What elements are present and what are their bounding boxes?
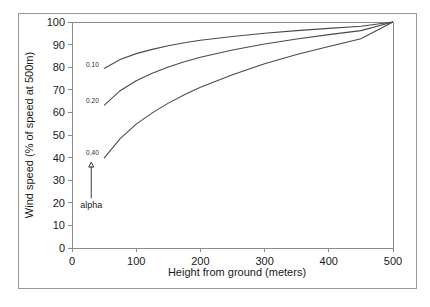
- y-axis-title: Wind speed (% of speed at 500m): [23, 52, 35, 218]
- y-tick-label: 10: [53, 219, 65, 231]
- series-label-0.10: 0.10: [86, 61, 99, 68]
- ticks-group: [68, 22, 393, 252]
- x-tick-label: 100: [127, 255, 145, 267]
- y-tick-label: 40: [53, 152, 65, 164]
- y-tick-label: 20: [53, 197, 65, 209]
- series-label-0.20: 0.20: [86, 97, 99, 104]
- y-tick-label: 100: [47, 16, 65, 28]
- axes-group: [72, 22, 393, 248]
- x-axis-title: Height from ground (meters): [168, 266, 306, 278]
- wind-shear-chart: 01020304050607080901000100200300400500 0…: [0, 0, 430, 307]
- x-tick-label: 0: [69, 255, 75, 267]
- y-tick-label: 30: [53, 174, 65, 186]
- curves-group: [104, 22, 393, 158]
- curve-alpha-0.10: [104, 22, 393, 69]
- x-tick-label: 500: [384, 255, 402, 267]
- curve-alpha-0.40: [104, 22, 393, 158]
- y-tick-label: 50: [53, 129, 65, 141]
- y-tick-label: 90: [53, 39, 65, 51]
- y-tick-label: 0: [59, 242, 65, 254]
- alpha-annotation-label: alpha: [80, 200, 102, 210]
- series-label-0.40: 0.40: [86, 149, 99, 156]
- x-tick-label: 400: [320, 255, 338, 267]
- y-tick-label: 70: [53, 84, 65, 96]
- series-labels-group: 0.100.200.40: [86, 61, 99, 156]
- chart-page: 01020304050607080901000100200300400500 0…: [0, 0, 430, 307]
- tick-labels-group: 01020304050607080901000100200300400500: [47, 16, 403, 267]
- annotations-group: alpha: [80, 162, 102, 210]
- y-tick-label: 80: [53, 61, 65, 73]
- y-tick-label: 60: [53, 106, 65, 118]
